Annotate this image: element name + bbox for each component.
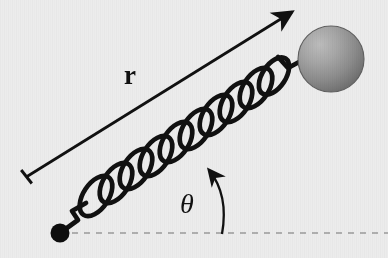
spring-coil <box>93 157 139 209</box>
vector-r-label: r <box>124 62 136 89</box>
spring-coil <box>193 89 239 141</box>
spring-coil <box>233 62 279 114</box>
spring-coil <box>213 76 259 128</box>
mass-ball <box>298 26 364 92</box>
theta-arc-arrow <box>209 170 224 234</box>
diagram-svg <box>0 0 388 258</box>
spring-coil <box>73 170 119 222</box>
spring-coil <box>173 103 219 155</box>
pivot-point <box>51 224 70 243</box>
spring-coil <box>113 143 159 195</box>
physics-diagram-canvas: r θ <box>0 0 388 258</box>
angle-theta-label: θ <box>180 190 194 218</box>
spring-coil <box>133 130 179 182</box>
vector-r-tail-tick <box>21 170 32 184</box>
spring-coil <box>153 116 199 168</box>
